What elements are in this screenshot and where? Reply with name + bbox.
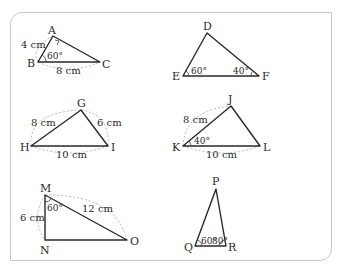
vertex-label-o: O [130,235,139,248]
triangle-pqr: P Q R 60° 80° [184,175,237,254]
vertex-label-e: E [172,70,180,83]
triangle-abc: A B C 4 cm 8 cm 60° [21,24,110,76]
angle-label-k: 40° [194,136,210,146]
vertex-label-a: A [47,24,57,37]
vertex-label-m: M [40,182,51,195]
side-label-kl: 10 cm [206,149,238,160]
triangle-def: D E F 60° 40° [172,20,270,83]
side-label-bc: 8 cm [56,65,81,76]
vertex-label-q: Q [184,241,193,254]
vertex-label-i: I [111,141,115,154]
side-label-ab: 4 cm [21,39,46,50]
vertex-label-j: J [227,93,232,106]
vertex-label-h: H [20,141,30,154]
vertex-label-b: B [27,57,35,70]
side-label-hi: 10 cm [56,149,88,160]
vertex-label-f: F [262,70,270,83]
vertex-label-g: G [77,97,86,110]
angle-label-b: 60° [47,51,63,61]
triangle-mno-edges [45,195,127,240]
angle-arc-k [189,141,191,146]
vertex-label-n: N [40,244,50,257]
angle-arc-m [45,199,51,202]
side-label-mo: 12 cm [82,203,114,214]
vertex-label-p: P [212,175,220,188]
vertex-label-k: K [172,141,181,154]
vertex-label-d: D [203,20,212,33]
angle-label-r: 80° [212,236,228,246]
angle-label-m: 60° [47,203,63,213]
triangle-ghi: G H I 8 cm 6 cm 10 cm [20,97,122,160]
side-label-gi: 6 cm [97,117,122,128]
side-label-jk: 8 cm [183,114,208,125]
triangles-figure: A B C 4 cm 8 cm 60° D E F 60° 40° G H I … [0,0,342,272]
side-label-gh: 8 cm [31,117,56,128]
angle-label-f: 40° [233,66,249,76]
right-angle-mark-a [55,40,59,45]
vertex-label-c: C [102,58,110,71]
angle-arc-e [186,71,189,76]
side-label-mn: 6 cm [20,212,45,223]
vertex-label-r: R [228,241,237,254]
triangle-mno: M N O 6 cm 12 cm 60° [20,182,139,257]
vertex-label-l: L [263,141,271,154]
angle-arc-b [42,55,46,62]
angle-label-e: 60° [191,66,207,76]
triangle-jkl: J K L 8 cm 10 cm 40° [172,93,271,160]
